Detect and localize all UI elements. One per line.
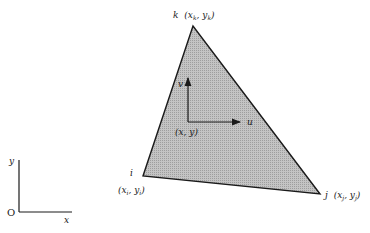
u-label: u [247, 117, 253, 127]
node-i-name: i [130, 168, 133, 178]
global-x-label: x [64, 215, 69, 225]
node-k-name: k [173, 10, 178, 20]
point-label: (x, y) [175, 127, 198, 137]
svg-text:j (xj, yj): j (xj, yj) [323, 190, 361, 202]
node-j-label: j (xj, yj) [323, 190, 361, 202]
global-y-label: y [8, 156, 15, 166]
svg-text:k (xk, yk): k (xk, yk) [173, 10, 215, 21]
v-label: v [178, 79, 183, 89]
finite-element-diagram: y O x k (xk, yk) i (xi, yi) j (xj, yj) v… [0, 0, 370, 233]
node-i-label: i (xi, yi) [118, 168, 145, 196]
global-origin-label: O [7, 207, 15, 218]
node-j-name: j [323, 190, 328, 200]
svg-text:(xi, yi): (xi, yi) [118, 185, 145, 196]
global-axes: y O x [7, 156, 72, 225]
triangular-element [143, 26, 320, 194]
node-k-label: k (xk, yk) [173, 10, 215, 21]
